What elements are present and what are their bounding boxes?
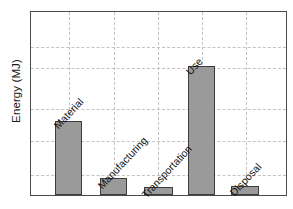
bar-use[interactable] [188,66,215,195]
y-axis-title: Energy (MJ) [10,31,22,151]
gridline-vertical [158,12,159,195]
bar-material[interactable] [55,121,82,195]
plot-area: Material Manufacturing Transportation Us… [30,11,287,196]
bar-chart-figure: Energy (MJ) Material Manufacturing Trans… [0,0,293,209]
